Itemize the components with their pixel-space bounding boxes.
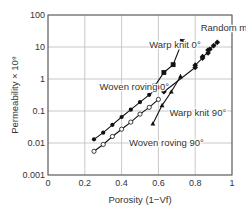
series-annotation: Warp knit 90° xyxy=(169,107,226,118)
data-point-marker xyxy=(129,108,133,112)
x-tick-label: 0.2 xyxy=(79,178,92,188)
data-point-marker xyxy=(138,100,142,104)
series-annotation: Warp knit 0° xyxy=(149,39,201,50)
data-point-marker xyxy=(92,137,96,141)
data-point-marker xyxy=(120,115,124,119)
data-point-marker xyxy=(101,131,105,135)
x-tick-label: 1 xyxy=(229,178,234,188)
x-tick-label: 0.6 xyxy=(152,178,165,188)
y-axis-label: Permeability × 10⁹ xyxy=(9,56,20,134)
data-point-marker xyxy=(110,134,114,138)
data-point-marker xyxy=(162,70,166,74)
data-point-marker xyxy=(110,123,114,127)
y-tick-label: 0.1 xyxy=(32,106,45,116)
data-point-marker xyxy=(178,74,183,78)
y-tick-label: 10 xyxy=(35,42,45,52)
series-annotation: Woven roving 90° xyxy=(129,137,204,148)
data-point-marker xyxy=(150,121,155,125)
y-tick-label: 1 xyxy=(40,74,45,84)
data-point-marker xyxy=(101,142,105,146)
plot-frame xyxy=(48,15,232,175)
data-point-marker xyxy=(120,127,124,131)
permeability-chart: 00.20.40.60.810.0010.010.1110100Porosity… xyxy=(0,0,246,216)
y-tick-label: 100 xyxy=(30,10,45,20)
data-point-marker xyxy=(129,120,133,124)
data-point-marker xyxy=(147,93,151,97)
y-tick-label: 0.01 xyxy=(27,138,45,148)
x-tick-label: 0 xyxy=(45,178,50,188)
data-point-marker xyxy=(147,105,151,109)
y-tick-label: 0.001 xyxy=(22,170,45,180)
data-point-marker xyxy=(92,149,96,153)
data-point-marker xyxy=(156,97,160,101)
x-tick-label: 0.8 xyxy=(189,178,202,188)
series-annotation: Woven roving 0° xyxy=(100,81,170,92)
x-axis-label: Porosity (1−Vf) xyxy=(108,194,171,205)
data-point-marker xyxy=(171,63,175,67)
data-point-marker xyxy=(138,112,142,116)
series-annotation: Random mat xyxy=(201,22,246,33)
x-tick-label: 0.4 xyxy=(115,178,128,188)
